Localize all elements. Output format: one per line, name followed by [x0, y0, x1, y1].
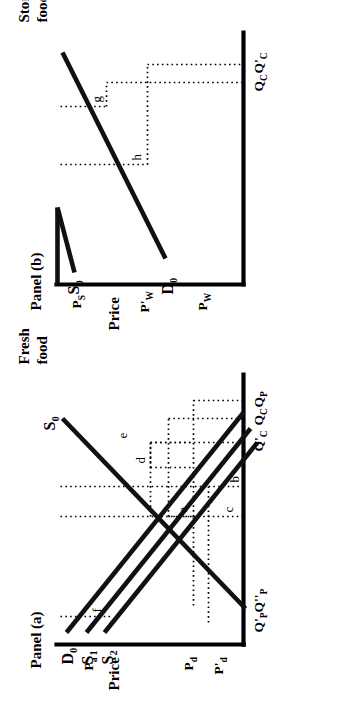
panel-a-point-d: d [132, 456, 147, 463]
panel-b-qty-tick-qc: QC [250, 73, 268, 91]
panel-a-quantity-axis-title-line2: food [33, 335, 49, 364]
panel-b-price-axis-title: Price [105, 296, 121, 330]
panel-a-qty-tick-qp: QP [250, 390, 268, 407]
panel-a-curve-s2 [104, 442, 257, 632]
panel-a-point-a: a [174, 506, 189, 512]
panel-a-price-tick-pd-prime: P'd [210, 656, 228, 674]
panel-a-label-s2: S2 [98, 650, 118, 664]
panel-b-price-tick-ps: PS [68, 294, 86, 308]
economics-supply-demand-figure: Panel (a) Price Fresh food [0, 0, 357, 704]
panel-a-point-f: f [88, 607, 103, 612]
panel-a-point-b: b [226, 476, 241, 483]
panel-a-demand-d0-curve [66, 412, 243, 632]
panel-a-title: Panel (a) [27, 611, 44, 668]
panel-a-group: Panel (a) Price Fresh food [15, 327, 268, 690]
panel-a-qty-tick-qp-prime: Q'P [250, 612, 268, 632]
panel-b-group: Panel (b) Price Storable food [15, 0, 268, 330]
rotated-figure-canvas: Panel (a) Price Fresh food [0, 0, 357, 704]
panel-b-quantity-axis-title-line1: Storable [15, 0, 31, 22]
panel-a-point-c: c [220, 506, 235, 512]
panel-a-qty-tick-qc-prime: Q'C [250, 430, 268, 451]
panel-a-point-e: e [114, 432, 129, 438]
panel-a-label-s0: S0 [40, 416, 60, 430]
panel-b-qty-tick-qc-prime: Q'C [250, 52, 268, 73]
panel-b-point-g: g [88, 95, 103, 102]
panel-b-demand-d0-curve [62, 52, 165, 258]
panel-b-quantity-axis-title-line2: food [33, 0, 49, 22]
panel-a-price-tick-pd: Pd [180, 656, 198, 670]
panel-a-qty-tick-qc: QC [250, 407, 268, 425]
panel-b-label-s0: S0 [64, 280, 84, 294]
figure-root: Panel (a) Price Fresh food [0, 0, 357, 704]
panel-a-quantity-axis-title-line1: Fresh [15, 327, 31, 364]
panel-b-price-tick-pw: PW [194, 292, 212, 310]
panel-b-point-h: h [128, 153, 143, 160]
panel-b-price-tick-pw-prime: P'W [136, 290, 154, 312]
panel-b-title: Panel (b) [27, 252, 44, 310]
panel-b-label-d0: D0 [158, 277, 178, 294]
panel-a-qty-tick-qp-dprime: Q''P [250, 588, 268, 612]
panel-a-label-d0: D0 [58, 647, 78, 664]
